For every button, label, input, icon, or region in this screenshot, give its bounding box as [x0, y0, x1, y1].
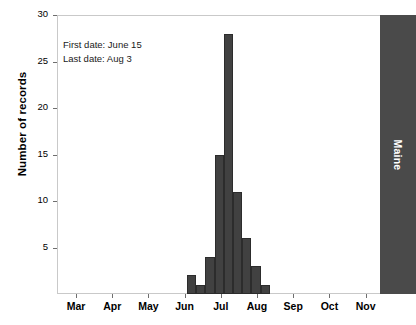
x-tick-label: Nov — [346, 300, 386, 312]
x-tick-label: May — [128, 300, 168, 312]
x-tick-mark — [257, 294, 258, 298]
x-tick-label: Oct — [309, 300, 349, 312]
x-tick-mark — [148, 294, 149, 298]
y-tick-label: 30 — [37, 8, 48, 19]
x-tick-mark — [366, 294, 367, 298]
y-tick-20: 20 — [0, 108, 57, 109]
x-tick-mark — [329, 294, 330, 298]
bar — [187, 275, 196, 294]
y-tick-5: 5 — [0, 248, 57, 249]
y-tick-label: 25 — [37, 55, 48, 66]
y-tick-15: 15 — [0, 155, 57, 156]
x-tick-mark — [112, 294, 113, 298]
chart-screenshot: Number of records 51015202530 MarAprMayJ… — [0, 0, 416, 325]
bar — [196, 285, 205, 294]
annotation-last-date: Last date: Aug 3 — [63, 52, 142, 66]
bar — [261, 285, 270, 294]
x-tick-mark — [221, 294, 222, 298]
x-tick-label: Sep — [273, 300, 313, 312]
y-tick-10: 10 — [0, 201, 57, 202]
x-tick-label: Jun — [165, 300, 205, 312]
x-tick-mark — [76, 294, 77, 298]
bar — [215, 155, 224, 295]
x-tick-label: Mar — [56, 300, 96, 312]
x-tick-label: Aug — [237, 300, 277, 312]
annotation-first-date: First date: June 15 — [63, 38, 142, 52]
annotation-block: First date: June 15 Last date: Aug 3 — [63, 38, 142, 66]
maine-bar-label: Maine — [392, 139, 404, 170]
x-tick-label: Apr — [92, 300, 132, 312]
y-tick-label: 20 — [37, 101, 48, 112]
y-tick-25: 25 — [0, 62, 57, 63]
y-tick-label: 5 — [43, 241, 48, 252]
y-axis-label: Number of records — [16, 24, 28, 224]
bar — [251, 266, 260, 294]
bar — [205, 257, 214, 294]
x-tick-mark — [185, 294, 186, 298]
bar — [233, 192, 242, 294]
maine-highlight-bar: Maine — [380, 15, 416, 294]
bar — [224, 34, 233, 294]
bar — [242, 238, 251, 294]
y-tick-label: 10 — [37, 194, 48, 205]
x-tick-mark — [293, 294, 294, 298]
x-tick-label: Jul — [201, 300, 241, 312]
y-tick-label: 15 — [37, 148, 48, 159]
y-tick-30: 30 — [0, 15, 57, 16]
